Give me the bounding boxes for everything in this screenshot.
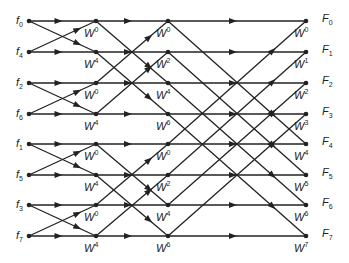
node-dot (166, 173, 171, 178)
node-dot (304, 112, 309, 117)
twiddle-label: W4 (84, 241, 98, 254)
node-dot (304, 173, 309, 178)
arrow-head-icon (229, 233, 237, 239)
twiddle-label: W0 (84, 88, 98, 101)
twiddle-label: W0 (156, 26, 170, 39)
input-label: f2 (16, 77, 23, 90)
arrow-head-icon (55, 141, 63, 147)
arrow-head-icon (55, 233, 63, 239)
arrow-head-icon (229, 18, 237, 24)
twiddle-label: W5 (294, 180, 308, 193)
arrow-head-icon (55, 172, 63, 178)
node-dot (166, 50, 171, 55)
output-label: F7 (322, 228, 333, 241)
twiddle-label: W7 (294, 241, 308, 254)
node-dot (166, 19, 171, 24)
twiddle-label: W6 (294, 210, 308, 223)
twiddle-label: W1 (294, 57, 308, 70)
arrow-head-icon (73, 223, 82, 229)
output-label: F5 (322, 167, 333, 180)
twiddle-label: W3 (294, 119, 308, 132)
output-label: F0 (322, 13, 333, 26)
arrow-head-icon (73, 28, 82, 34)
twiddle-label: W2 (156, 57, 170, 70)
node-dot (27, 234, 32, 239)
node-dot (166, 142, 171, 147)
twiddle-label: W0 (294, 26, 308, 39)
node-dot (27, 173, 32, 178)
node-dot (27, 112, 32, 117)
twiddle-label: W0 (84, 26, 98, 39)
output-label: F6 (322, 197, 333, 210)
node-dot (94, 142, 99, 147)
twiddle-label: W2 (156, 180, 170, 193)
arrow-head-icon (229, 141, 237, 147)
twiddle-label: W4 (294, 149, 308, 162)
twiddle-label: W4 (156, 88, 170, 101)
input-label: f1 (16, 138, 23, 151)
arrow-head-icon (124, 233, 132, 239)
input-label: f7 (16, 230, 23, 243)
node-dot (304, 142, 309, 147)
node-dot (166, 234, 171, 239)
node-dot (94, 173, 99, 178)
node-dot (166, 203, 171, 208)
output-label: F1 (322, 44, 333, 57)
twiddle-label: W0 (84, 210, 98, 223)
twiddle-label: W4 (156, 210, 170, 223)
arrow-head-icon (229, 172, 237, 178)
twiddle-label: W4 (84, 180, 98, 193)
input-label: f0 (16, 15, 23, 28)
arrow-head-icon (55, 18, 63, 24)
node-dot (94, 19, 99, 24)
node-dot (94, 81, 99, 86)
input-label: f3 (16, 199, 23, 212)
arrow-head-icon (73, 162, 82, 168)
arrow-head-icon (229, 202, 237, 208)
output-label: F2 (322, 75, 333, 88)
node-dot (94, 112, 99, 117)
node-dot (94, 50, 99, 55)
node-dot (27, 19, 32, 24)
input-label: f4 (16, 46, 23, 59)
output-label: F4 (322, 136, 333, 149)
node-dot (27, 50, 32, 55)
input-label: f5 (16, 169, 23, 182)
node-dot (27, 203, 32, 208)
arrow-head-icon (73, 39, 82, 45)
twiddle-label: W0 (156, 149, 170, 162)
arrow-head-icon (124, 80, 132, 86)
node-dot (94, 203, 99, 208)
arrow-head-icon (124, 141, 132, 147)
twiddle-label: W4 (84, 57, 98, 70)
twiddle-label: W4 (84, 119, 98, 132)
twiddle-label: W0 (84, 149, 98, 162)
arrow-head-icon (55, 49, 63, 55)
node-dot (304, 203, 309, 208)
node-dot (304, 19, 309, 24)
arrow-head-icon (55, 111, 63, 117)
node-dot (166, 112, 171, 117)
node-dot (304, 50, 309, 55)
arrow-head-icon (124, 111, 132, 117)
node-dot (27, 142, 32, 147)
arrow-head-icon (55, 80, 63, 86)
arrow-head-icon (124, 18, 132, 24)
node-dot (94, 234, 99, 239)
twiddle-label: W2 (294, 88, 308, 101)
node-dot (304, 81, 309, 86)
input-label: f6 (16, 108, 23, 121)
arrow-head-icon (73, 212, 82, 218)
arrow-head-icon (55, 202, 63, 208)
arrow-head-icon (124, 49, 132, 55)
arrow-head-icon (73, 151, 82, 157)
arrow-head-icon (229, 49, 237, 55)
node-dot (304, 234, 309, 239)
output-label: F3 (322, 106, 333, 119)
node-dot (166, 81, 171, 86)
twiddle-label: W6 (156, 119, 170, 132)
node-dot (27, 81, 32, 86)
arrow-head-icon (73, 90, 82, 96)
twiddle-label: W6 (156, 241, 170, 254)
arrow-head-icon (73, 101, 82, 107)
